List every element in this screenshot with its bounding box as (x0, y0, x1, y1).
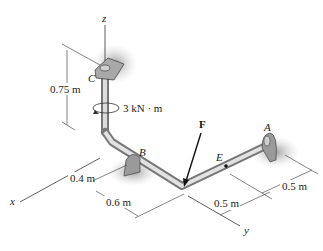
dim-label-0.5-a: 0.5 m (282, 180, 308, 192)
point-e-dot (224, 164, 228, 168)
couple-moment-label: 3 kN · m (123, 102, 163, 114)
point-b-label: B (139, 146, 146, 158)
force-f-label: F (199, 118, 206, 130)
dim-line-top-ext (62, 44, 100, 65)
dim-label-0.6: 0.6 m (106, 196, 132, 208)
point-e-label: E (215, 151, 223, 163)
dim-label-0.4: 0.4 m (70, 172, 96, 184)
pipe-assembly-diagram: z x y 0.75 m C 3 kN · m B A E F (0, 0, 323, 251)
x-axis-label: x (9, 195, 15, 207)
z-axis-label: z (101, 12, 107, 24)
dim-label-0.75: 0.75 m (50, 83, 81, 95)
dim-label-0.5-e: 0.5 m (214, 197, 240, 209)
point-a-label: A (263, 121, 271, 133)
dim-line-bottom-ext (62, 122, 75, 130)
point-c-label: C (88, 72, 96, 84)
y-axis-label: y (243, 224, 249, 236)
